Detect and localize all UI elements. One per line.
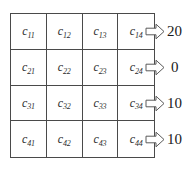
matrix-cell-label: c33 bbox=[93, 97, 106, 109]
row-output: 20 bbox=[145, 13, 182, 49]
matrix-cell-label: c44 bbox=[130, 133, 143, 145]
matrix-cell-subscript: 41 bbox=[27, 139, 35, 148]
matrix-cell-subscript: 14 bbox=[135, 31, 143, 40]
matrix-diagram: c11c12c13c14c21c22c23c24c31c32c33c34c41c… bbox=[0, 0, 190, 174]
matrix-cell: c43 bbox=[83, 121, 119, 157]
matrix-cell-label: c22 bbox=[58, 61, 71, 73]
matrix-cell-label: c32 bbox=[58, 97, 71, 109]
matrix-cell: c42 bbox=[47, 121, 83, 157]
matrix-cell-subscript: 24 bbox=[135, 67, 143, 76]
matrix-cell: c31 bbox=[11, 86, 47, 122]
matrix-cell: c41 bbox=[11, 121, 47, 157]
matrix-cell: c23 bbox=[83, 50, 119, 86]
matrix-cell: c22 bbox=[47, 50, 83, 86]
matrix-cell-label: c14 bbox=[130, 25, 143, 37]
right-arrow-icon bbox=[145, 131, 165, 148]
matrix-cell-subscript: 33 bbox=[99, 102, 107, 111]
right-arrow-icon bbox=[145, 23, 165, 40]
matrix-cell: c12 bbox=[47, 14, 83, 50]
right-arrow-icon bbox=[145, 59, 165, 76]
matrix-cell-label: c43 bbox=[93, 133, 106, 145]
matrix-cell-label: c23 bbox=[93, 61, 106, 73]
matrix-cell-label: c31 bbox=[22, 97, 35, 109]
matrix-cell-subscript: 34 bbox=[135, 102, 143, 111]
matrix-cell: c32 bbox=[47, 86, 83, 122]
matrix-cell-subscript: 21 bbox=[27, 67, 35, 76]
matrix-cell: c33 bbox=[83, 86, 119, 122]
row-output-value: 0 bbox=[166, 60, 179, 75]
row-output: 10 bbox=[145, 122, 182, 158]
row-output: 0 bbox=[145, 49, 179, 85]
matrix-cell-label: c21 bbox=[22, 61, 35, 73]
matrix-cell-subscript: 32 bbox=[63, 102, 71, 111]
matrix-cell-subscript: 23 bbox=[99, 67, 107, 76]
matrix-cell-label: c34 bbox=[130, 97, 143, 109]
matrix-cell: c13 bbox=[83, 14, 119, 50]
matrix-grid: c11c12c13c14c21c22c23c24c31c32c33c34c41c… bbox=[10, 13, 155, 158]
matrix-cell: c21 bbox=[11, 50, 47, 86]
matrix-cell-subscript: 22 bbox=[63, 67, 71, 76]
matrix-cell-label: c12 bbox=[58, 25, 71, 37]
matrix-cell-subscript: 12 bbox=[63, 31, 71, 40]
row-output: 10 bbox=[145, 86, 182, 122]
matrix-cell-subscript: 13 bbox=[99, 31, 107, 40]
row-output-value: 10 bbox=[166, 132, 182, 147]
row-output-value: 20 bbox=[166, 24, 182, 39]
matrix-cell-label: c24 bbox=[130, 61, 143, 73]
matrix-cell-subscript: 31 bbox=[27, 102, 35, 111]
matrix-cell-subscript: 44 bbox=[135, 139, 143, 148]
matrix-cell-label: c11 bbox=[22, 25, 34, 37]
row-output-value: 10 bbox=[166, 96, 182, 111]
matrix-cell-subscript: 42 bbox=[63, 139, 71, 148]
right-arrow-icon bbox=[145, 95, 165, 112]
matrix-cell-label: c13 bbox=[93, 25, 106, 37]
matrix-cell-label: c41 bbox=[22, 133, 35, 145]
matrix-cell: c11 bbox=[11, 14, 47, 50]
matrix-cell-subscript: 43 bbox=[99, 139, 107, 148]
matrix-cell-subscript: 11 bbox=[28, 31, 35, 40]
matrix-cell-label: c42 bbox=[58, 133, 71, 145]
